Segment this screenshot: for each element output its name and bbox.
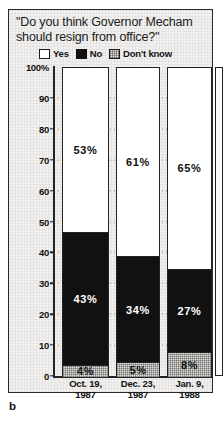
y-axis-tick-label: 50 (39, 216, 49, 227)
legend-label: Don't know (123, 48, 172, 59)
legend-item-no[interactable]: No (76, 48, 102, 59)
x-axis-category-label: Dec. 23,1987 (110, 378, 166, 400)
legend-item-don-t-know[interactable]: Don't know (109, 48, 172, 59)
y-axis-tick-mark (50, 128, 54, 129)
bar-value-label: 34% (126, 304, 150, 316)
y-axis-tick-label: 100% (26, 62, 49, 73)
legend-label: No (90, 48, 102, 59)
bar-segment-don-t-know[interactable]: 8% (168, 352, 211, 377)
y-axis-tick-mark (50, 221, 54, 222)
stacked-bar[interactable]: 61%34%5% (116, 67, 160, 376)
bar-value-label: 27% (178, 305, 202, 317)
y-axis-tick-label: 70 (39, 154, 49, 165)
y-axis-tick-mark (50, 283, 54, 284)
y-axis-tick-mark (50, 344, 54, 345)
y-axis-tick-label: 80 (39, 123, 49, 134)
y-axis-tick-label: 90 (39, 92, 49, 103)
y-axis-tick-mark (50, 313, 54, 314)
x-axis-category-line: 1988 (161, 389, 218, 400)
y-axis-tick-mark (50, 375, 54, 376)
y-axis-tick-label: 20 (39, 309, 49, 320)
y-axis-tick-mark (50, 159, 54, 160)
legend-label: Yes (53, 48, 69, 59)
bar-value-label: 61% (126, 156, 150, 168)
bar-value-label: 8% (181, 359, 198, 371)
y-axis-tick-mark (50, 97, 54, 98)
chart-figure: "Do you think Governor Mecham should res… (0, 0, 223, 424)
plot-edge-strip (215, 67, 223, 376)
bar-value-label: 5% (129, 364, 146, 376)
chart-title: "Do you think Governor Mecham should res… (16, 15, 208, 44)
bar-segment-no[interactable]: 34% (117, 256, 159, 361)
bar-value-label: 43% (74, 293, 98, 305)
plot-area: 100%908070605040302010053%43%4%Oct. 19,1… (53, 67, 206, 376)
bar-segment-yes[interactable]: 53% (63, 68, 108, 232)
legend-swatch-icon (76, 49, 87, 59)
bar-value-label: 65% (178, 162, 202, 174)
legend-swatch-icon (109, 49, 120, 59)
x-axis-category-line: 1987 (110, 389, 166, 400)
legend-item-yes[interactable]: Yes (39, 48, 69, 59)
y-axis-tick-label: 0 (44, 371, 49, 382)
x-axis-category-line: 1987 (56, 389, 115, 400)
x-axis-category-line: Dec. 23, (110, 378, 166, 389)
y-axis-tick-mark (50, 252, 54, 253)
y-axis-tick-mark (50, 190, 54, 191)
stacked-bar[interactable]: 53%43%4% (62, 67, 109, 376)
bar-segment-no[interactable]: 43% (63, 232, 108, 365)
bar-segment-don-t-know[interactable]: 5% (117, 362, 159, 377)
chart-legend: YesNoDon't know (39, 47, 172, 60)
x-axis-category-line: Jan. 9, (161, 378, 218, 389)
bar-value-label: 53% (74, 144, 98, 156)
bar-value-label: 4% (77, 365, 94, 377)
bar-segment-yes[interactable]: 61% (117, 68, 159, 256)
legend-swatch-icon (39, 49, 50, 59)
bar-segment-yes[interactable]: 65% (168, 68, 211, 269)
x-axis-category-label: Jan. 9,1988 (161, 378, 218, 400)
y-axis-tick-label: 10 (39, 340, 49, 351)
figure-letter: b (9, 400, 16, 412)
bar-segment-no[interactable]: 27% (168, 269, 211, 352)
y-axis-tick-label: 40 (39, 247, 49, 258)
x-axis-category-line: Oct. 19, (56, 378, 115, 389)
x-axis-category-label: Oct. 19,1987 (56, 378, 115, 400)
bar-segment-don-t-know[interactable]: 4% (63, 365, 108, 377)
y-axis-tick-label: 30 (39, 278, 49, 289)
y-axis-tick-label: 60 (39, 185, 49, 196)
chart-frame: "Do you think Governor Mecham should res… (8, 9, 213, 393)
stacked-bar[interactable]: 65%27%8% (167, 67, 212, 376)
